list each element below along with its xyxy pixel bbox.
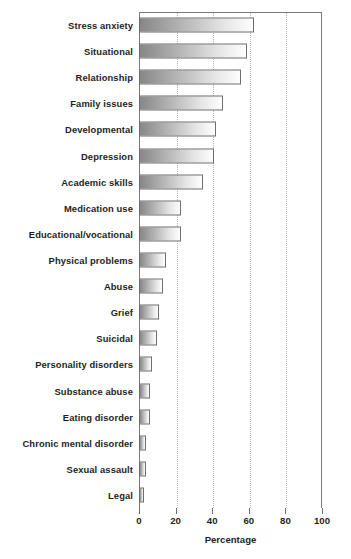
- category-label: Developmental: [65, 124, 133, 135]
- category-label: Substance abuse: [54, 385, 133, 396]
- category-label: Legal: [108, 489, 133, 500]
- category-label: Chronic mental disorder: [22, 437, 133, 448]
- bar: [139, 487, 144, 502]
- x-axis: 020406080100 Percentage: [139, 508, 322, 559]
- bar: [139, 122, 216, 137]
- bar-row: Grief: [0, 299, 351, 325]
- category-label: Academic skills: [61, 176, 133, 187]
- category-label: Physical problems: [49, 254, 133, 265]
- bar: [139, 461, 146, 476]
- category-label: Stress anxiety: [68, 20, 133, 31]
- bar: [139, 435, 146, 450]
- bar-row: Eating disorder: [0, 404, 351, 430]
- bar-row: Family issues: [0, 90, 351, 116]
- bar-row: Medication use: [0, 195, 351, 221]
- bar-row: Chronic mental disorder: [0, 430, 351, 456]
- bar-row: Relationship: [0, 64, 351, 90]
- bar: [139, 409, 150, 424]
- category-label: Sexual assault: [67, 463, 133, 474]
- category-label: Personality disorders: [35, 359, 133, 370]
- category-label: Family issues: [70, 98, 133, 109]
- bar: [139, 44, 247, 59]
- bar-rows: Stress anxietySituationalRelationshipFam…: [0, 12, 351, 508]
- category-label: Situational: [84, 46, 133, 57]
- bar-row: Personality disorders: [0, 351, 351, 377]
- x-tick-label: 20: [170, 515, 181, 526]
- x-tick: [139, 508, 140, 514]
- bar-row: Developmental: [0, 116, 351, 142]
- bar-row: Legal: [0, 482, 351, 508]
- x-tick: [212, 508, 213, 514]
- bar: [139, 279, 163, 294]
- bar: [139, 148, 214, 163]
- bar: [139, 226, 181, 241]
- bar: [139, 200, 181, 215]
- category-label: Relationship: [76, 72, 133, 83]
- bar: [139, 305, 159, 320]
- bar-row: Situational: [0, 38, 351, 64]
- x-tick: [176, 508, 177, 514]
- x-tick-label: 80: [280, 515, 291, 526]
- category-label: Eating disorder: [63, 411, 133, 422]
- bar-row: Abuse: [0, 273, 351, 299]
- category-label: Educational/vocational: [29, 228, 133, 239]
- bar: [139, 357, 152, 372]
- bar: [139, 174, 203, 189]
- bar: [139, 70, 241, 85]
- category-label: Depression: [81, 150, 133, 161]
- x-tick-label: 60: [243, 515, 254, 526]
- bar: [139, 252, 166, 267]
- x-tick: [249, 508, 250, 514]
- bar-chart: Stress anxietySituationalRelationshipFam…: [0, 0, 351, 559]
- x-tick: [322, 508, 323, 514]
- x-tick-label: 40: [207, 515, 218, 526]
- bar-row: Suicidal: [0, 325, 351, 351]
- bar: [139, 18, 254, 33]
- bar-row: Academic skills: [0, 169, 351, 195]
- bar-row: Substance abuse: [0, 377, 351, 403]
- bar-row: Stress anxiety: [0, 12, 351, 38]
- bar-row: Physical problems: [0, 247, 351, 273]
- x-tick-label: 100: [314, 515, 330, 526]
- bar-row: Educational/vocational: [0, 221, 351, 247]
- bar-row: Sexual assault: [0, 456, 351, 482]
- bar: [139, 96, 223, 111]
- category-label: Abuse: [104, 281, 133, 292]
- bar: [139, 383, 150, 398]
- category-label: Grief: [111, 307, 133, 318]
- category-label: Suicidal: [96, 333, 133, 344]
- x-tick: [285, 508, 286, 514]
- category-label: Medication use: [64, 202, 133, 213]
- x-tick-label: 0: [136, 515, 141, 526]
- x-axis-title: Percentage: [139, 534, 322, 545]
- bar: [139, 331, 157, 346]
- bar-row: Depression: [0, 143, 351, 169]
